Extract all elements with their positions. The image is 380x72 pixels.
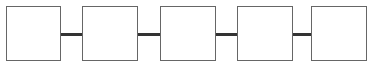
node-box-2 [82,6,138,61]
connector-3-4 [216,33,237,36]
connector-4-5 [293,33,311,36]
node-box-3 [160,6,216,61]
connector-1-2 [61,33,82,36]
node-box-4 [237,6,293,61]
node-box-5 [311,6,367,61]
node-box-1 [6,6,61,61]
connector-2-3 [138,33,160,36]
